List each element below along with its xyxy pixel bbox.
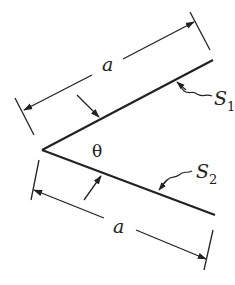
dimension-arrow-top-right <box>123 22 194 59</box>
leader-s2 <box>163 171 192 184</box>
dimension-label-bottom: a <box>113 215 124 237</box>
dimension-label-top: a <box>102 53 113 75</box>
extension-line-bottom-right <box>204 230 213 270</box>
plate-s1 <box>42 60 213 150</box>
extension-line-bottom-left <box>31 160 39 200</box>
extension-line-top-left <box>15 98 34 135</box>
angle-arrow-bottom <box>84 176 101 200</box>
dimension-arrow-top-left <box>24 75 92 110</box>
plate-s2 <box>42 150 215 215</box>
dimension-arrow-bottom-left <box>34 190 104 218</box>
surface-label-s1: S1 <box>214 87 235 114</box>
leader-s1 <box>180 86 212 96</box>
angle-plates-diagram: a a θ S1 S2 <box>0 0 235 285</box>
leader-arrow-s2 <box>159 180 167 190</box>
angle-label-theta: θ <box>92 141 102 161</box>
extension-line-top-right <box>190 12 210 50</box>
angle-arrow-top <box>77 95 99 117</box>
dimension-arrow-bottom-right <box>136 230 206 259</box>
surface-label-s2: S2 <box>196 160 217 187</box>
